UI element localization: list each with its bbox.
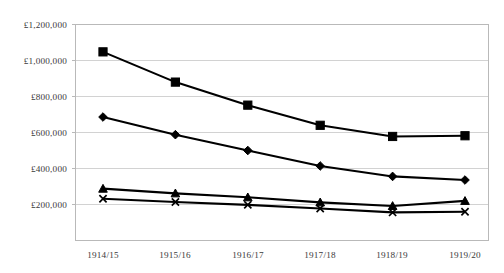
xtick-label-0: 1914/15 (87, 250, 119, 260)
chart-container: £1,200,000 £1,000,000 £800,000 £600,000 … (0, 0, 504, 273)
ytick-label-400000: £400,000 (31, 164, 67, 174)
xtick-label-3: 1917/18 (304, 250, 336, 260)
ytick-label-1200000: £1,200,000 (24, 20, 68, 30)
xtick-label-2: 1916/17 (232, 250, 264, 260)
ytick-label-1000000: £1,000,000 (24, 56, 68, 66)
data-point-marker (389, 132, 397, 140)
data-point-marker (461, 132, 469, 140)
data-point-marker (99, 48, 107, 56)
line-chart: £1,200,000 £1,000,000 £800,000 £600,000 … (0, 0, 504, 273)
ytick-label-800000: £800,000 (31, 92, 67, 102)
ytick-label-600000: £600,000 (31, 128, 67, 138)
data-point-marker (244, 101, 252, 109)
data-point-marker (171, 78, 179, 86)
data-point-marker (316, 121, 324, 129)
xtick-label-1: 1915/16 (159, 250, 191, 260)
ytick-label-200000: £200,000 (31, 200, 67, 210)
xtick-label-5: 1919/20 (449, 250, 481, 260)
xtick-label-4: 1918/19 (376, 250, 408, 260)
